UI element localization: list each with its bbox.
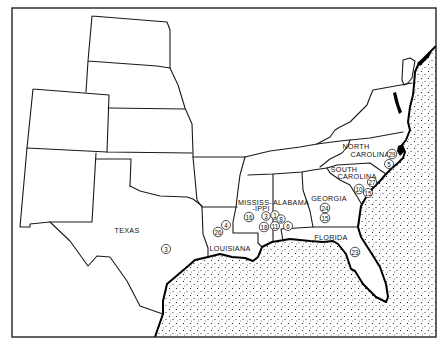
svg-text:6: 6	[286, 223, 290, 230]
rio-grande-border	[50, 222, 163, 314]
svg-text:26: 26	[214, 229, 222, 236]
label-florida: FLORIDA	[314, 233, 347, 242]
label-alabama: ALABAMA	[273, 198, 309, 207]
marker-louisiana-2: 4	[222, 221, 231, 230]
chesapeake-bay-shape	[393, 92, 402, 114]
north-dakota-outline	[86, 16, 170, 92]
svg-text:15: 15	[321, 215, 329, 222]
marker-south-carolina-2: 10	[354, 184, 364, 194]
svg-text:10: 10	[355, 186, 363, 193]
svg-text:27: 27	[368, 179, 376, 186]
label-north-carolina-line2: CAROLINA	[350, 150, 389, 159]
marker-georgia-2: 15	[320, 213, 330, 223]
svg-text:23: 23	[351, 249, 359, 256]
marker-georgia-1: 24	[320, 203, 330, 213]
svg-text:4: 4	[224, 222, 228, 229]
new-jersey-outline	[402, 58, 415, 85]
svg-text:1: 1	[273, 212, 277, 219]
new-mexico-outline	[20, 148, 96, 227]
marker-north-carolina-2: 5	[385, 160, 394, 169]
svg-text:16: 16	[245, 214, 253, 221]
svg-text:3: 3	[164, 246, 168, 253]
marker-alabama-3: 11	[271, 222, 280, 231]
svg-text:18: 18	[260, 224, 268, 231]
pamlico-sound-shape	[397, 144, 404, 156]
svg-text:11: 11	[272, 223, 279, 230]
marker-south-carolina-3: 15	[364, 189, 373, 198]
marker-south-carolina-1: 27	[367, 177, 376, 186]
kansas-oklahoma-border	[27, 148, 192, 153]
svg-text:24: 24	[321, 205, 329, 212]
marker-louisiana-1: 26	[213, 227, 223, 237]
southern-us-map: TEXAS LOUISIANA MISSISS- -IPPI ALABAMA G…	[0, 0, 446, 348]
marker-mississippi-1: 16	[244, 212, 254, 222]
label-louisiana: LOUISIANA	[209, 244, 250, 253]
marker-florida-1: 23	[350, 247, 360, 257]
svg-text:15: 15	[364, 190, 372, 197]
virginia-west-border	[317, 83, 412, 144]
red-river-border	[130, 186, 202, 206]
label-georgia: GEORGIA	[311, 194, 347, 203]
nebraska-kansas-border	[108, 108, 185, 109]
svg-text:29: 29	[388, 151, 396, 158]
marker-mississippi-3: 18	[259, 222, 269, 232]
svg-text:8: 8	[279, 216, 283, 223]
marker-north-carolina-1: 29	[387, 149, 397, 159]
label-texas: TEXAS	[114, 226, 139, 235]
ocean-gulf-atlantic	[155, 46, 436, 337]
texas-panhandle	[96, 159, 131, 186]
state-labels: TEXAS LOUISIANA MISSISS- -IPPI ALABAMA G…	[114, 142, 389, 253]
colorado-outline	[27, 89, 109, 152]
marker-texas-1: 3	[161, 244, 170, 253]
svg-text:5: 5	[387, 161, 391, 168]
marker-mississippi-2: 3	[262, 212, 271, 221]
tennessee-south-border	[248, 168, 327, 175]
marker-alabama-4: 6	[284, 222, 293, 231]
svg-text:3: 3	[264, 213, 268, 220]
missouri-river-border	[170, 68, 202, 207]
